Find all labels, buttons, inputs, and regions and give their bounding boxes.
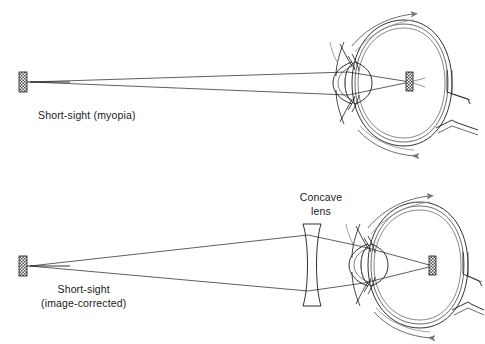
arrow-top-outer: [368, 196, 430, 228]
cornea-bottom: [349, 244, 369, 286]
optic-nerve-lower-edge: [454, 308, 484, 315]
light-rays-top: [27, 72, 425, 95]
arrow-top-outer: [352, 14, 414, 46]
image-bar: [406, 72, 413, 91]
caption-myopia: Short-sight (myopia): [38, 109, 136, 122]
arrow-cornea-pointer: [330, 42, 337, 62]
optic-nerve-lower: [436, 120, 478, 130]
ray-upper-incident: [30, 72, 348, 82]
label-concave-lens-line1: Concave: [291, 191, 351, 205]
cornea-inner-curve: [354, 248, 369, 282]
label-concave-lens-line2: lens: [291, 205, 351, 219]
choroid-layer: [355, 24, 448, 142]
caption-corrected-line2: (image-corrected): [41, 296, 126, 310]
object-arrow-bottom: [19, 256, 27, 276]
cornea-top: [333, 62, 353, 104]
ray-lower-through-lens: [308, 283, 364, 291]
optic-nerve-bottom: [452, 252, 484, 315]
optic-nerve-lower-edge: [438, 126, 478, 135]
caption-myopia-line1: Short-sight (myopia): [38, 109, 136, 122]
optic-nerve-top: [436, 70, 478, 135]
retina-layer: [374, 210, 461, 320]
cornea-outer-curve: [349, 244, 368, 286]
caption-corrected-line1: Short-sight: [41, 282, 126, 296]
label-concave-lens: Concave lens: [291, 191, 351, 218]
ray-upper-refracted: [348, 72, 410, 82]
choroid-layer: [371, 206, 464, 324]
panel-myopia: [19, 14, 478, 156]
arrow-cornea-pointer: [346, 224, 353, 244]
concave-lens: [303, 224, 321, 306]
object-arrow-top: [19, 72, 27, 92]
cornea-outer-curve: [333, 62, 352, 104]
image-marker-top: [406, 72, 413, 91]
ray-lower-incident: [30, 82, 348, 95]
ray-upper-incident: [30, 235, 308, 266]
image-marker-bottom: [429, 256, 436, 275]
panel-corrected: [19, 196, 484, 338]
caption-corrected: Short-sight (image-corrected): [41, 282, 126, 310]
optic-nerve-upper-edge: [452, 70, 470, 100]
ray-lower-refracted: [348, 82, 410, 95]
retina-layer: [358, 28, 445, 138]
iris-ciliary-top: [336, 42, 359, 124]
object-bar: [19, 72, 27, 92]
optic-nerve-lower: [452, 302, 484, 310]
concave-lens-body: [303, 224, 321, 306]
image-bar: [429, 256, 436, 275]
figure-root: Short-sight (myopia) Short-sight (image-…: [0, 0, 485, 344]
iris-ciliary-bottom: [352, 224, 375, 306]
object-bar: [19, 256, 27, 276]
